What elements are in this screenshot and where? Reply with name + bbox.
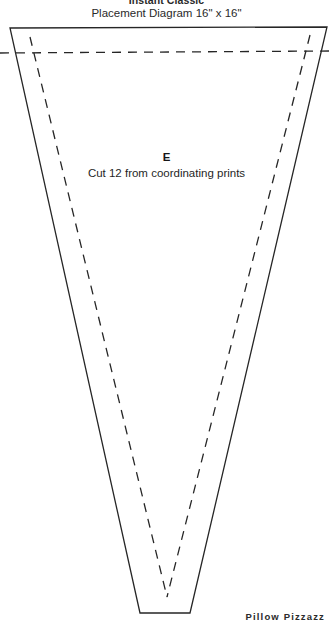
cut-line-outline	[10, 27, 327, 613]
seam-line-right	[167, 35, 310, 597]
template-drawing	[0, 0, 333, 625]
placement-diagram-page: Instant Classic Placement Diagram 16" x …	[0, 0, 333, 625]
seam-guide-horizontal-line	[0, 51, 333, 53]
seam-line-left	[30, 37, 167, 597]
template-svg	[0, 0, 333, 625]
brand-label: Pillow Pizzazz	[246, 611, 325, 622]
